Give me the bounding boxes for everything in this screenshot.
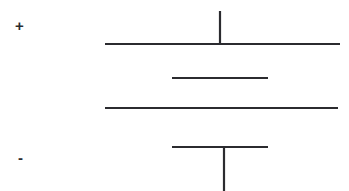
positive-terminal-label: + [15,18,24,33]
battery-symbol-svg [0,0,349,191]
negative-terminal-label: - [18,150,23,165]
battery-diagram-canvas: + - [0,0,349,191]
